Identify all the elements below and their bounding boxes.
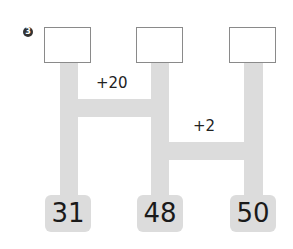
- start-number-2: 48: [137, 195, 183, 232]
- operation-label-2: +2: [193, 117, 215, 135]
- rung-2: [151, 142, 263, 160]
- answer-box-1[interactable]: [44, 27, 91, 63]
- start-number-3: 50: [230, 195, 276, 232]
- start-number-1: 31: [45, 195, 91, 232]
- operation-label-1: +20: [96, 74, 128, 92]
- rung-1: [60, 99, 169, 117]
- problem-number-badge: 3: [23, 27, 33, 37]
- stem-2: [151, 63, 169, 197]
- stem-1: [60, 63, 78, 197]
- answer-box-3[interactable]: [229, 27, 276, 63]
- stem-3: [244, 63, 263, 197]
- answer-box-2[interactable]: [136, 27, 183, 63]
